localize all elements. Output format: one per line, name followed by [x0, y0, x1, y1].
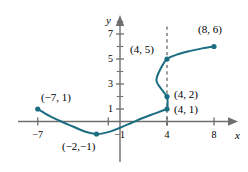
axes-group — [18, 15, 238, 162]
point-label--2--1: (−2,−1) — [62, 141, 95, 152]
x-tick-label-4: 4 — [165, 130, 170, 140]
data-point-4-5[interactable] — [164, 56, 169, 61]
y-axis-name: y — [106, 15, 111, 26]
graph-figure: −7−1481357yx(−7, 1)(−2,−1)(4, 1)(4, 2)(4… — [0, 0, 248, 172]
point-label-4-1: (4, 1) — [174, 104, 198, 115]
x-tick-label--1: −1 — [114, 130, 125, 140]
y-axis-arrow — [116, 15, 124, 26]
data-point-4-1[interactable] — [164, 106, 169, 111]
x-tick-label-8: 8 — [212, 130, 217, 140]
point-label-4-5: (4, 5) — [130, 44, 154, 55]
x-axis-name: x — [235, 130, 240, 141]
point-label-4-2: (4, 2) — [174, 89, 198, 100]
x-tick-label--7: −7 — [32, 130, 43, 140]
y-tick-label-7: 7 — [108, 29, 113, 39]
data-point--7-1[interactable] — [35, 106, 40, 111]
y-tick-label-3: 3 — [108, 79, 113, 89]
x-axis-arrow — [228, 117, 238, 125]
data-point-8-6[interactable] — [211, 44, 216, 49]
point-label--7-1: (−7, 1) — [41, 92, 71, 103]
data-point--2--1[interactable] — [94, 131, 99, 136]
y-tick-label-5: 5 — [108, 54, 113, 64]
data-point-4-2[interactable] — [164, 94, 169, 99]
point-label-8-6: (8, 6) — [198, 24, 222, 35]
y-tick-label-1: 1 — [108, 104, 113, 114]
